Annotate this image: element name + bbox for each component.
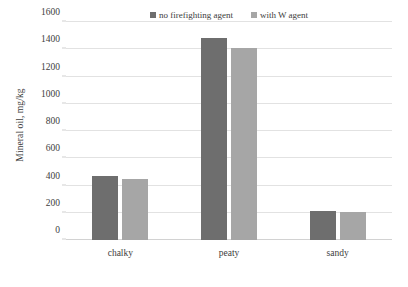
legend-swatch-icon (150, 12, 156, 18)
bar-group: peaty (175, 22, 284, 240)
y-axis-tick-label: 1200 (41, 62, 60, 72)
bar-group: chalky (66, 22, 175, 240)
y-axis-tick-label: 1400 (41, 34, 60, 44)
x-axis-category-label: sandy (283, 248, 392, 258)
legend-item: with W agent (251, 10, 308, 20)
bar (92, 176, 118, 240)
bar (310, 211, 336, 240)
legend-item: no firefighting agent (150, 10, 233, 20)
chart-legend: no firefighting agentwith W agent (66, 10, 392, 20)
y-axis-title-label: Mineral oil, mg/kg (15, 88, 25, 161)
bar-group: sandy (283, 22, 392, 240)
y-axis-tick-label: 800 (46, 116, 60, 126)
x-axis-category-label: peaty (175, 248, 284, 258)
plot-area: 02004006008001000120014001600 chalkypeat… (66, 22, 392, 240)
bar (201, 38, 227, 240)
y-axis-title: Mineral oil, mg/kg (12, 0, 28, 250)
y-axis-tick-label: 600 (46, 143, 60, 153)
bar (122, 179, 148, 240)
y-axis-tick-label: 200 (46, 198, 60, 208)
y-axis-tick-label: 1000 (41, 89, 60, 99)
bar-chart-figure: Mineral oil, mg/kg 020040060080010001200… (0, 0, 408, 287)
figure-caption (0, 280, 408, 287)
y-axis-tick-label: 400 (46, 171, 60, 181)
legend-swatch-icon (251, 12, 257, 18)
y-axis-tick-label: 1600 (41, 7, 60, 17)
legend-label: no firefighting agent (159, 10, 233, 20)
y-axis-tick-label: 0 (55, 225, 60, 235)
bar (340, 212, 366, 240)
bar-groups: chalkypeatysandy (66, 22, 392, 240)
bar (231, 48, 257, 240)
x-axis-category-label: chalky (66, 248, 175, 258)
legend-label: with W agent (260, 10, 308, 20)
